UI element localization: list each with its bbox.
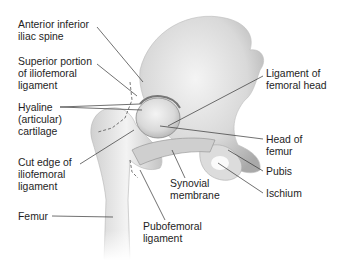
- label-line: Pubofemoral: [143, 221, 202, 233]
- label-line: Hyaline: [18, 102, 62, 114]
- label-line: Anterior inferior: [18, 19, 89, 31]
- label-line: Superior portion: [18, 56, 92, 68]
- label-line: iliac spine: [18, 31, 89, 43]
- label-line: Ischium: [266, 188, 302, 200]
- label-ligament-femoral-head: Ligament offemoral head: [266, 68, 327, 92]
- label-line: femoral head: [266, 80, 327, 92]
- label-line: Pubis: [266, 166, 292, 178]
- label-hyaline-cartilage: Hyaline(articular)cartilage: [18, 102, 62, 138]
- label-pubofemoral-ligament: Pubofemoralligament: [143, 221, 202, 245]
- label-cut-edge-iliofemoral: Cut edge ofiliofemoralligament: [18, 157, 72, 193]
- label-line: ligament: [143, 233, 202, 245]
- label-line: femur: [266, 146, 302, 158]
- label-line: Cut edge of: [18, 157, 72, 169]
- label-line: ligament: [18, 181, 72, 193]
- label-line: (articular): [18, 114, 62, 126]
- label-synovial-membrane: Synovialmembrane: [170, 178, 220, 202]
- label-superior-iliofemoral: Superior portionof iliofemoralligament: [18, 56, 92, 92]
- label-femur: Femur: [18, 211, 48, 223]
- label-line: iliofemoral: [18, 169, 72, 181]
- label-line: Synovial: [170, 178, 220, 190]
- label-pubis: Pubis: [266, 166, 292, 178]
- label-anterior-inferior-iliac-spine: Anterior inferioriliac spine: [18, 19, 89, 43]
- label-head-of-femur: Head offemur: [266, 134, 302, 158]
- label-line: cartilage: [18, 126, 62, 138]
- label-line: Ligament of: [266, 68, 327, 80]
- label-line: Head of: [266, 134, 302, 146]
- label-line: of iliofemoral: [18, 68, 92, 80]
- label-line: ligament: [18, 80, 92, 92]
- label-line: membrane: [170, 190, 220, 202]
- label-line: Femur: [18, 211, 48, 223]
- label-ischium: Ischium: [266, 188, 302, 200]
